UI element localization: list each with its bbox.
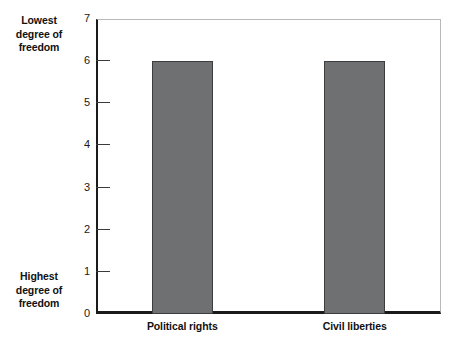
y-axis-tick <box>96 102 110 103</box>
y-axis-tick <box>96 229 110 230</box>
bar <box>152 61 213 314</box>
x-axis-category-label: Political rights <box>112 320 252 333</box>
y-axis-tick <box>96 144 110 145</box>
annotation-lowest-line-3: freedom <box>0 41 78 55</box>
y-axis-tick-label: 0 <box>68 308 90 319</box>
y-axis-tick-label: 4 <box>68 139 90 150</box>
y-axis-tick <box>96 271 110 272</box>
y-axis-tick-label: 6 <box>68 55 90 66</box>
bar <box>324 61 385 314</box>
y-axis-tick-label: 7 <box>68 13 90 24</box>
annotation-highest-line-3: freedom <box>0 297 78 311</box>
y-axis-tick-label: 5 <box>68 97 90 108</box>
bar-chart: Lowest degree of freedom Highest degree … <box>0 0 457 346</box>
annotation-highest-line-1: Highest <box>0 270 78 284</box>
x-axis-category-label: Civil liberties <box>285 320 425 333</box>
y-axis-tick-label: 3 <box>68 182 90 193</box>
y-axis-tick <box>96 187 110 188</box>
plot-area <box>96 19 441 314</box>
annotation-highest-degree-of-freedom: Highest degree of freedom <box>0 270 78 311</box>
y-axis-tick-label: 2 <box>68 224 90 235</box>
annotation-lowest-line-2: degree of <box>0 28 78 42</box>
annotation-highest-line-2: degree of <box>0 284 78 298</box>
annotation-lowest-line-1: Lowest <box>0 14 78 28</box>
y-axis-tick <box>96 60 110 61</box>
annotation-lowest-degree-of-freedom: Lowest degree of freedom <box>0 14 78 55</box>
y-axis-tick-label: 1 <box>68 266 90 277</box>
